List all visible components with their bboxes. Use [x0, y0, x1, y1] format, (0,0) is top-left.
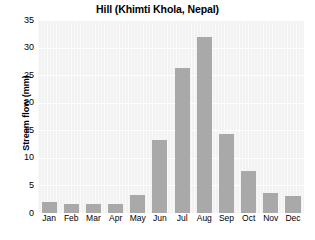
x-tick-label: Oct — [238, 214, 260, 223]
y-tick-label: 30 — [4, 43, 34, 52]
x-tick-label: Sep — [215, 214, 237, 223]
bar — [241, 171, 256, 213]
bar-slot — [60, 20, 82, 213]
y-tick-label: 25 — [4, 71, 34, 80]
bar — [263, 193, 278, 213]
bar-slot — [149, 20, 171, 213]
x-tick-label: Aug — [193, 214, 215, 223]
bar — [197, 37, 212, 213]
bar-slot — [282, 20, 304, 213]
bar — [108, 204, 123, 213]
chart-container: Hill (Khimti Khola, Nepal) Stream flow (… — [0, 0, 315, 240]
bar-slot — [82, 20, 104, 213]
bar — [86, 204, 101, 213]
plot-area — [38, 20, 304, 213]
bar — [175, 68, 190, 213]
bar-slot — [193, 20, 215, 213]
y-tick-label: 20 — [4, 98, 34, 107]
x-tick-label: May — [127, 214, 149, 223]
bar-slot — [215, 20, 237, 213]
bar — [130, 195, 145, 213]
x-tick-label: Mar — [82, 214, 104, 223]
bar-slot — [238, 20, 260, 213]
y-tick-label: 0 — [4, 209, 34, 218]
bar — [64, 204, 79, 213]
bar — [219, 134, 234, 213]
x-tick-label: Nov — [260, 214, 282, 223]
bar-slot — [105, 20, 127, 213]
x-tick-label: Jul — [171, 214, 193, 223]
bar-slot — [127, 20, 149, 213]
y-tick-label: 35 — [4, 16, 34, 25]
bar — [285, 196, 300, 213]
y-tick-label: 5 — [4, 181, 34, 190]
chart-title: Hill (Khimti Khola, Nepal) — [0, 3, 315, 15]
x-tick-label: Feb — [60, 214, 82, 223]
x-tick-label: Jan — [38, 214, 60, 223]
y-tick-label: 15 — [4, 126, 34, 135]
bar-slot — [260, 20, 282, 213]
bar-slot — [38, 20, 60, 213]
x-tick-label: Dec — [282, 214, 304, 223]
y-tick-label: 10 — [4, 153, 34, 162]
bar — [42, 202, 57, 213]
x-tick-label: Jun — [149, 214, 171, 223]
x-axis-tick-labels: JanFebMarAprMayJunJulAugSepOctNovDec — [38, 214, 304, 223]
bar — [152, 140, 167, 213]
bar-series — [38, 20, 304, 213]
x-tick-label: Apr — [105, 214, 127, 223]
bar-slot — [171, 20, 193, 213]
